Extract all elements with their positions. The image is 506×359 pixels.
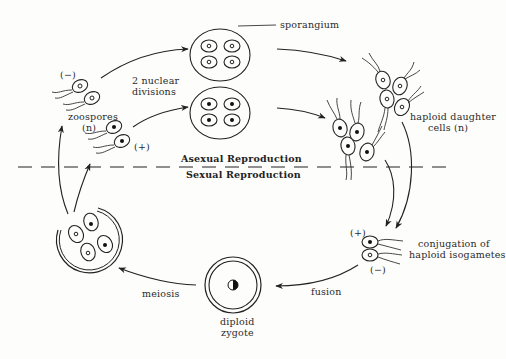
- sexual-reproduction-label: Sexual Reproduction: [186, 169, 301, 180]
- arrow-fusion: [276, 265, 358, 286]
- haploid-daughter-label: haploid daughter: [410, 111, 496, 122]
- sporangium-minus: [190, 29, 250, 81]
- nuclear-divisions-label: 2 nuclear: [132, 75, 180, 86]
- haploid-daughter-cells-plus: [327, 98, 385, 180]
- zoospores-ploidy-label: (n): [82, 122, 96, 133]
- zoospore-plus-label: (+): [134, 141, 150, 152]
- arrow-sporangium-to-daughter-minus: [277, 49, 346, 61]
- diploid-label: diploid: [220, 316, 254, 327]
- gamete-plus-label: (+): [350, 227, 366, 238]
- arrow-sporangium-to-daughter-plus: [277, 108, 325, 118]
- asexual-reproduction-label: Asexual Reproduction: [180, 153, 302, 164]
- meiotic-cyst: [56, 208, 122, 273]
- haploid-daughter-label-2: cells (n): [428, 122, 468, 133]
- arrow-cyst-to-zoospores-minus: [59, 126, 68, 214]
- zoospore-minus-label: (−): [60, 69, 76, 80]
- arrow-daughter-plus-to-gametes: [385, 160, 394, 226]
- sporangium-label: sporangium: [280, 19, 339, 30]
- fusion-label: fusion: [311, 286, 342, 297]
- diploid-zygote: [205, 257, 261, 313]
- isogametes: [362, 236, 403, 264]
- conjugation-label: conjugation of: [418, 238, 491, 249]
- conjugation-label-2: haploid isogametes: [409, 249, 506, 260]
- gamete-minus-label: (−): [370, 264, 386, 275]
- sporangium-plus: [190, 87, 250, 139]
- zoospores-label: zoospores: [68, 111, 118, 122]
- arrow-zoospores-to-sporangium-minus: [101, 49, 188, 78]
- meiosis-label: meiosis: [142, 288, 180, 299]
- life-cycle-diagram: Asexual Reproduction Sexual Reproduction…: [0, 0, 506, 359]
- zygote-label-text: zygote: [221, 327, 254, 338]
- sporangium-leader-line: [238, 25, 276, 26]
- nuclear-divisions-label-2: divisions: [132, 86, 176, 97]
- arrow-zoospores-to-sporangium-plus: [133, 107, 188, 127]
- arrow-cyst-to-zoospores-plus: [74, 164, 90, 212]
- arrow-daughter-minus-to-gametes: [396, 122, 412, 228]
- arrow-meiosis: [119, 268, 196, 285]
